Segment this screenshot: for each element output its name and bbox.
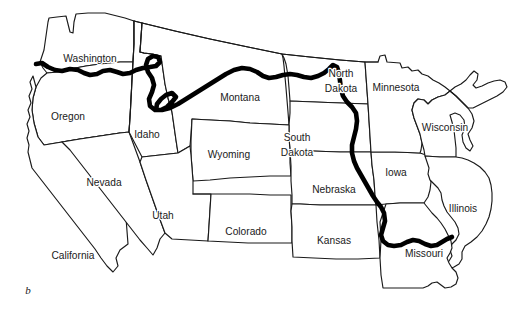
state-shape-kansas: [291, 204, 380, 259]
state-label-california: California: [51, 250, 94, 261]
state-label-missouri: Missouri: [405, 248, 443, 259]
map-figure: Washington Oregon Idaho Montana North Da…: [0, 0, 508, 321]
us-outline-map: Washington Oregon Idaho Montana North Da…: [0, 0, 508, 321]
state-label-colorado: Colorado: [225, 226, 267, 237]
state-shape-south-dakota: [289, 101, 371, 152]
state-label-south-dakota-line1: South: [284, 132, 311, 143]
state-label-north-dakota-line1: North: [329, 68, 354, 79]
state-label-nebraska: Nebraska: [312, 184, 356, 195]
state-label-nevada: Nevada: [86, 177, 121, 188]
figure-panel-label: b: [25, 284, 31, 296]
state-label-wyoming: Wyoming: [208, 149, 251, 160]
state-label-minnesota: Minnesota: [372, 82, 419, 93]
state-label-oregon: Oregon: [51, 111, 85, 122]
state-label-north-dakota-line2: Dakota: [325, 83, 358, 94]
state-label-illinois: Illinois: [449, 203, 477, 214]
state-label-wisconsin: Wisconsin: [422, 122, 468, 133]
state-label-kansas: Kansas: [317, 235, 351, 246]
state-label-montana: Montana: [220, 92, 260, 103]
state-label-washington: Washington: [63, 53, 116, 64]
state-label-utah: Utah: [152, 210, 174, 221]
state-label-idaho: Idaho: [134, 129, 160, 140]
state-label-iowa: Iowa: [385, 167, 407, 178]
state-label-south-dakota-line2: Dakota: [281, 147, 314, 158]
state-shape-iowa: [371, 152, 431, 205]
